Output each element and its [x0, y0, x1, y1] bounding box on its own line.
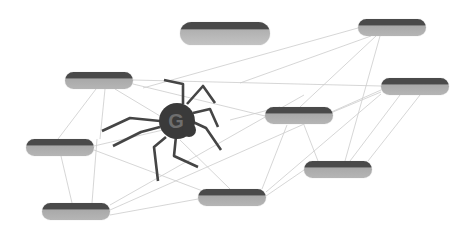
spider-icon: G: [0, 0, 473, 238]
spider-leg: [113, 127, 160, 146]
spider-web-diagram: G: [0, 0, 473, 238]
spider-leg: [164, 80, 183, 104]
spider-leg: [174, 136, 198, 167]
spider-abdomen: [182, 123, 196, 137]
spider-leg: [154, 137, 166, 181]
spider-mark-g: G: [168, 110, 184, 132]
spider-leg: [187, 86, 215, 104]
